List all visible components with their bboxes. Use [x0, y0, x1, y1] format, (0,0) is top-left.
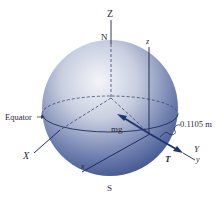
north-label: N [101, 32, 108, 42]
equator-label: Equator [5, 112, 32, 122]
y-local-label: y [195, 155, 200, 164]
distance-label: 0.1105 m [180, 119, 212, 129]
X-axis-label: X [22, 150, 30, 161]
z-local-label: z [145, 37, 150, 46]
x-local-label: x [80, 162, 85, 171]
sphere [42, 40, 178, 176]
south-label: S [107, 183, 112, 193]
weight-label: mg [111, 124, 123, 134]
Y-axis-label: Y [194, 144, 200, 154]
tension-label: T [165, 154, 171, 164]
sphere-force-diagram: Z N X x z mg T Y y 0.1105 m Equator S [0, 0, 222, 199]
Z-axis-label: Z [107, 8, 113, 19]
Y-axis-line [183, 153, 195, 160]
